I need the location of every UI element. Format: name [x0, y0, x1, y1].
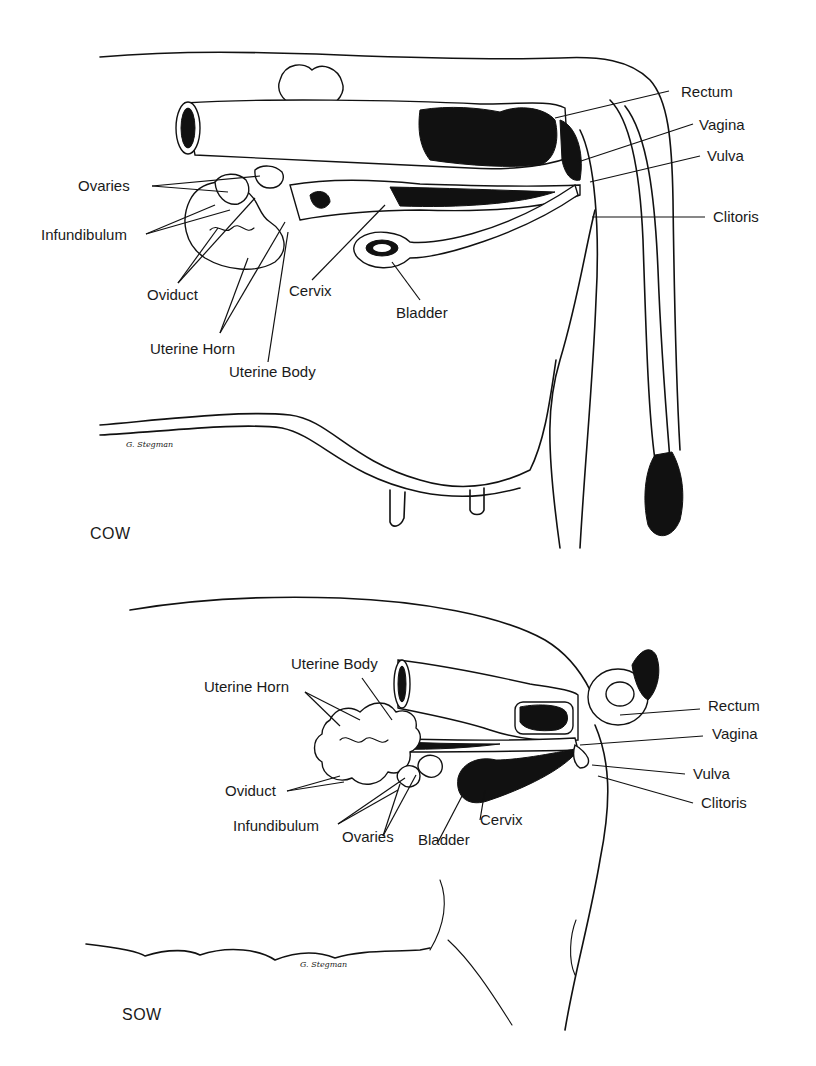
cow-label-vulva: Vulva	[707, 148, 744, 163]
cow-label-bladder: Bladder	[396, 305, 448, 320]
sow-label-rectum: Rectum	[708, 698, 760, 713]
sow-label-bladder: Bladder	[418, 832, 470, 847]
cow-label-vagina: Vagina	[699, 117, 745, 132]
cow-label-rectum: Rectum	[681, 84, 733, 99]
sow-label-uterine-horn: Uterine Horn	[204, 679, 289, 694]
sow-label-infundibulum: Infundibulum	[233, 818, 319, 833]
sow-label-uterine-body: Uterine Body	[291, 656, 378, 671]
sow-label-clitoris: Clitoris	[701, 795, 747, 810]
cow-label-uterine-body: Uterine Body	[229, 364, 316, 379]
cow-panel-title: COW	[90, 525, 131, 543]
sow-illustration	[0, 560, 816, 1066]
sow-label-oviduct: Oviduct	[225, 783, 276, 798]
sow-artist-signature: G. Stegman	[300, 960, 347, 969]
cow-label-cervix: Cervix	[289, 283, 332, 298]
sow-label-vulva: Vulva	[693, 766, 730, 781]
sow-label-cervix: Cervix	[480, 812, 523, 827]
cow-label-oviduct: Oviduct	[147, 287, 198, 302]
sow-label-ovaries: Ovaries	[342, 829, 394, 844]
reproductive-tract-diagram: Ovaries Infundibulum Oviduct Uterine Hor…	[0, 0, 816, 1066]
sow-panel-title: SOW	[122, 1006, 162, 1024]
cow-label-clitoris: Clitoris	[713, 209, 759, 224]
cow-label-uterine-horn: Uterine Horn	[150, 341, 235, 356]
cow-artist-signature: G. Stegman	[126, 440, 173, 449]
cow-label-infundibulum: Infundibulum	[41, 227, 127, 242]
cow-label-ovaries: Ovaries	[78, 178, 130, 193]
sow-label-vagina: Vagina	[712, 726, 758, 741]
